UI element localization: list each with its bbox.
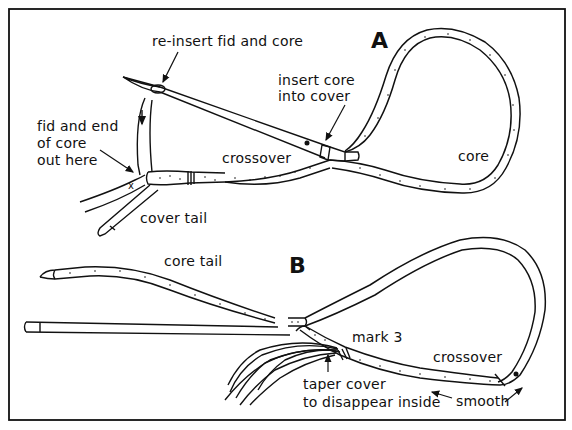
label-reinsert-fid-core: re-insert fid and core <box>152 33 303 50</box>
splice-diagram: x <box>0 0 572 430</box>
label-mark-3: mark 3 <box>352 329 403 346</box>
label-insert-core-into-cover: insert core into cover <box>278 72 355 104</box>
label-cover-tail: cover tail <box>140 210 207 227</box>
panel-a-letter: A <box>371 28 388 53</box>
label-taper-cover: taper cover to disappear inside <box>303 375 441 411</box>
panel-b-stipple <box>69 270 491 382</box>
label-core-a: core <box>458 148 489 165</box>
label-crossover-a: crossover <box>222 150 291 167</box>
label-crossover-b: crossover <box>433 349 502 366</box>
label-core-tail: core tail <box>164 253 222 270</box>
panel-b-drawing <box>25 238 546 405</box>
label-fid-end-of-core: fid and end of core out here <box>37 118 119 169</box>
panel-b-letter: B <box>289 253 306 278</box>
label-smooth: smooth <box>456 393 510 410</box>
panel-a-stipple <box>159 33 515 190</box>
svg-text:x: x <box>128 180 134 191</box>
panel-a-drawing: x <box>80 29 520 237</box>
